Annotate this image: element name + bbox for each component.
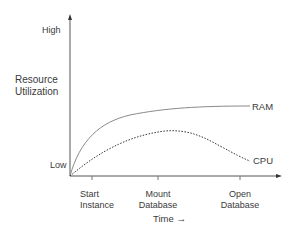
cpu-series-label: CPU xyxy=(253,155,273,166)
x-tick-label-open-line2: Database xyxy=(218,200,262,211)
ram-line xyxy=(70,106,250,176)
cpu-line xyxy=(70,131,250,176)
x-tick-label-open: Open Database xyxy=(218,189,262,211)
y-high-label: High xyxy=(42,25,61,36)
y-low-label: Low xyxy=(50,160,67,171)
x-axis-title: Time → xyxy=(153,213,186,224)
x-tick-label-start: Start Instance xyxy=(80,189,114,211)
ram-series-label: RAM xyxy=(252,101,273,112)
x-tick-label-mount: Mount Database xyxy=(136,189,180,211)
x-tick-label-start-line1: Start xyxy=(80,189,114,200)
y-axis-title-line2: Utilization xyxy=(15,86,58,98)
x-tick-label-start-line2: Instance xyxy=(80,200,114,211)
y-axis-title: Resource Utilization xyxy=(15,74,58,98)
x-axis-arrow-icon xyxy=(276,174,282,178)
x-tick-label-open-line1: Open xyxy=(218,189,262,200)
x-tick-label-mount-line2: Database xyxy=(136,200,180,211)
y-axis-title-line1: Resource xyxy=(15,74,58,86)
y-axis-arrow-icon xyxy=(68,14,72,20)
x-tick-label-mount-line1: Mount xyxy=(136,189,180,200)
